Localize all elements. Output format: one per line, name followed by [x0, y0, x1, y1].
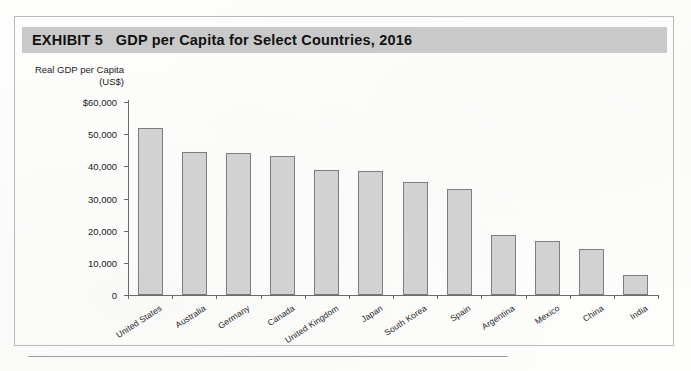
x-axis-tick: [172, 295, 173, 299]
x-axis-tick: [437, 295, 438, 299]
y-axis-tick-label: 30,000: [88, 193, 117, 204]
x-axis-tick: [526, 295, 527, 299]
y-axis-caption-line1: Real GDP per Capita: [16, 64, 124, 76]
bar: [270, 156, 295, 295]
x-axis-tick: [305, 295, 306, 299]
y-axis-tick: 50,000: [124, 134, 128, 135]
bar-chart-plot-area: $60,00050,00040,00030,00020,00010,0000 U…: [128, 100, 658, 296]
bar: [491, 235, 516, 295]
x-axis-tick: [261, 295, 262, 299]
scanned-page-background: EXHIBIT 5 GDP per Capita for Select Coun…: [0, 0, 691, 371]
y-axis-line: [128, 100, 129, 296]
y-axis-tick-label: 0: [112, 290, 117, 301]
y-axis-tick-label: 10,000: [88, 257, 117, 268]
x-axis-tick: [128, 295, 129, 299]
bar: [182, 152, 207, 295]
x-axis-tick: [393, 295, 394, 299]
y-axis-tick-label: 50,000: [88, 129, 117, 140]
y-axis-tick-label: 20,000: [88, 225, 117, 236]
x-axis-tick: [216, 295, 217, 299]
y-axis-tick: 30,000: [124, 199, 128, 200]
y-axis-tick: $60,000: [124, 102, 128, 103]
bar: [447, 189, 472, 295]
y-axis-caption: Real GDP per Capita (US$): [16, 64, 124, 88]
bar: [226, 153, 251, 295]
bar: [358, 171, 383, 295]
x-axis-tick: [614, 295, 615, 299]
bar: [403, 182, 428, 295]
y-axis-tick-label: 40,000: [88, 161, 117, 172]
x-axis-tick: [481, 295, 482, 299]
y-axis-caption-line2: (US$): [16, 76, 124, 88]
bar: [579, 249, 604, 295]
y-axis-tick: 40,000: [124, 166, 128, 167]
bar: [535, 241, 560, 295]
y-axis-tick: 20,000: [124, 231, 128, 232]
x-axis-tick: [349, 295, 350, 299]
y-axis-tick-label: $60,000: [83, 97, 117, 108]
page-title: EXHIBIT 5 GDP per Capita for Select Coun…: [22, 32, 412, 48]
footer-divider-rule: [28, 356, 508, 357]
exhibit-title-banner: EXHIBIT 5 GDP per Capita for Select Coun…: [22, 27, 667, 53]
bar: [138, 128, 163, 295]
bar: [623, 275, 648, 295]
x-axis-tick: [570, 295, 571, 299]
x-axis-tick: [658, 295, 659, 299]
y-axis-tick: 10,000: [124, 263, 128, 264]
bar: [314, 170, 339, 295]
